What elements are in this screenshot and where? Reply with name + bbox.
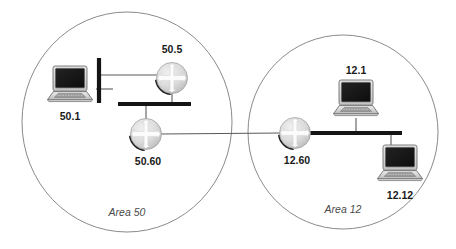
router-50-5[interactable]	[155, 63, 188, 96]
router-label-50-5: 50.5	[162, 43, 183, 55]
area-labels: Area 50 Area 12	[108, 203, 362, 218]
area-boundary-area-50	[22, 12, 232, 232]
routers	[129, 63, 311, 152]
router-12-60[interactable]	[278, 118, 311, 151]
area-boundaries	[22, 12, 438, 232]
host-label-50-1: 50.1	[60, 110, 81, 122]
host-12-12[interactable]	[378, 145, 423, 181]
host-50-1[interactable]	[48, 66, 93, 102]
link-router-50-60-to-router-12-60	[160, 133, 282, 134]
area-label-area-50: Area 50	[108, 206, 146, 218]
router-label-12-60: 12.60	[284, 154, 310, 166]
router-label-50-60: 50.60	[135, 155, 161, 167]
hosts	[48, 66, 423, 181]
network-diagram-canvas: 50.5 50.60 12.60 50.1 12.1 12.12 Area 50…	[0, 0, 456, 249]
node-labels: 50.5 50.60 12.60 50.1 12.1 12.12	[60, 43, 414, 201]
host-label-12-12: 12.12	[387, 189, 413, 201]
router-50-60[interactable]	[129, 119, 162, 152]
host-12-1[interactable]	[334, 80, 379, 116]
area-label-area-12: Area 12	[324, 203, 362, 215]
diagram-svg: 50.5 50.60 12.60 50.1 12.1 12.12 Area 50…	[0, 0, 456, 249]
host-label-12-1: 12.1	[346, 64, 367, 76]
